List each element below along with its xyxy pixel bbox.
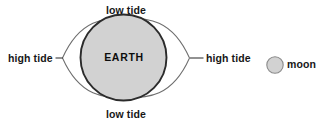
tides-diagram: low tide low tide high tide high tide EA…	[0, 0, 331, 124]
label-earth: EARTH	[80, 51, 168, 63]
moon-circle	[267, 57, 283, 73]
label-high-tide-right: high tide	[206, 52, 251, 64]
label-low-tide-top: low tide	[0, 4, 252, 16]
label-high-tide-left: high tide	[8, 52, 53, 64]
label-moon: moon	[287, 58, 316, 70]
label-low-tide-bottom: low tide	[0, 108, 252, 120]
